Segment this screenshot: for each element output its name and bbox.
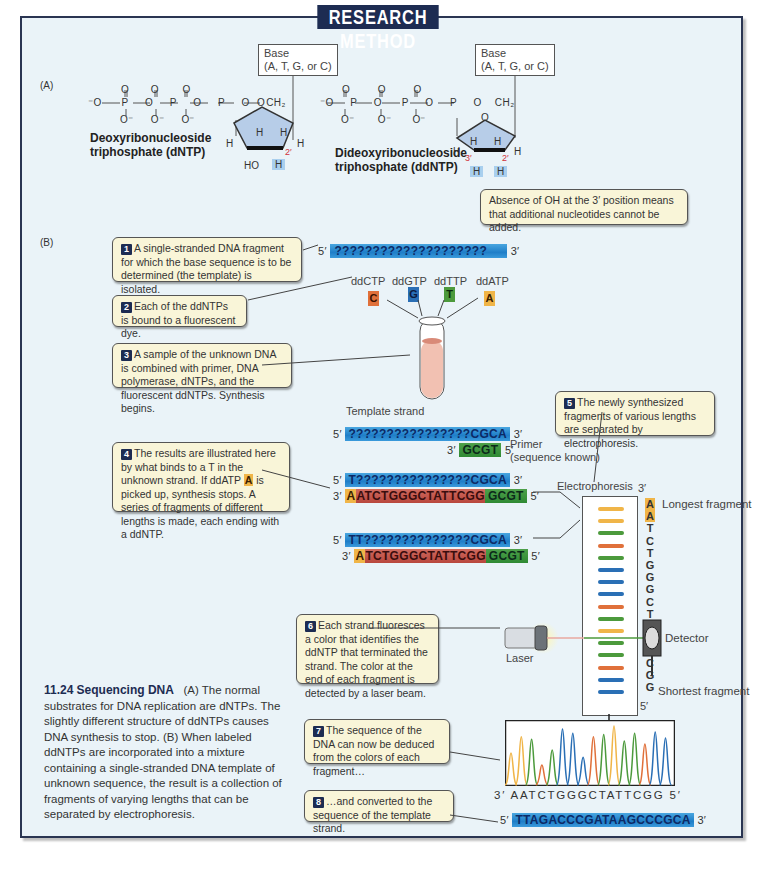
dntp-h-right: H	[297, 138, 304, 149]
dntp-h1: H H	[256, 127, 287, 138]
ddntp-h1: H H	[470, 136, 501, 147]
chromatogram	[505, 720, 675, 786]
ddntp-phosphate-chain: ⁻O P O P O P O CH₂	[320, 97, 515, 108]
dntp-base-box: Base (A, T, G, or C)	[258, 44, 338, 76]
base-box-title: Base	[264, 47, 332, 60]
section-title: RESEARCH METHOD	[317, 5, 438, 29]
ddntp-oxygen-minus-row: O⁻O⁻O⁻	[341, 114, 425, 125]
dntp-ho: HO	[244, 160, 259, 171]
base-box-options: (A, T, G, or C)	[481, 60, 549, 73]
base-box-title: Base	[481, 47, 549, 60]
ddntp-oxygen-row: OOO	[342, 84, 421, 95]
dntp-h-left: H	[226, 138, 233, 149]
ddntp-h-blue-2: H	[494, 166, 507, 177]
dntp-2prime: 2′	[285, 147, 292, 157]
ddntp-ring-oxygen: O	[481, 112, 489, 123]
dntp-h-blue: H	[272, 159, 285, 170]
ddntp-3prime: 3′	[465, 153, 472, 163]
ddntp-h-blue-3: H	[470, 166, 483, 177]
ddntp-base-box: Base (A, T, G, or C)	[475, 44, 555, 76]
ddntp-2prime: 2′	[502, 153, 509, 163]
ddntp-h-left: H	[453, 146, 460, 157]
dntp-oxygen-row: OOO	[85, 84, 190, 95]
ddntp-h-right: H	[514, 146, 521, 157]
dntp-oxygen-minus-row: O⁻O⁻O⁻	[120, 114, 194, 125]
base-box-options: (A, T, G, or C)	[264, 60, 332, 73]
dntp-ring-oxygen: O	[257, 97, 265, 108]
